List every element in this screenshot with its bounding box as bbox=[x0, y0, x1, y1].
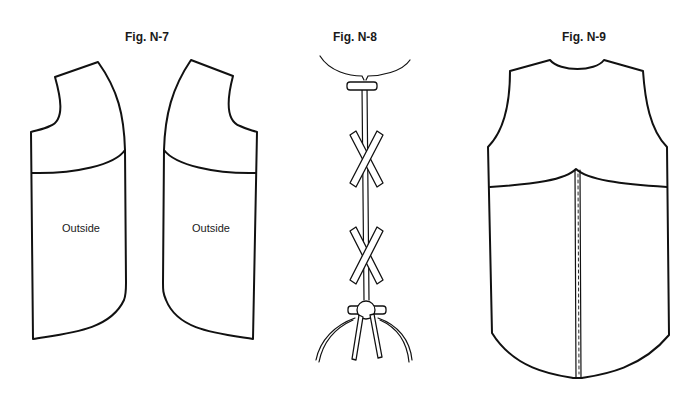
fig-n7-left-panel bbox=[31, 62, 126, 339]
fig-n7-right-panel bbox=[163, 60, 257, 339]
diagram-canvas bbox=[0, 0, 692, 400]
neckline-curve bbox=[320, 56, 410, 80]
lace-knot bbox=[316, 301, 412, 362]
yoke-seam-left bbox=[32, 150, 125, 173]
lace-bar bbox=[347, 82, 377, 90]
center-back-seam bbox=[575, 170, 576, 378]
panel-label-outside-right: Outside bbox=[192, 222, 230, 234]
fig-n9-back bbox=[488, 60, 669, 378]
yoke-seam-back bbox=[490, 169, 667, 187]
lace-cross-2 bbox=[350, 227, 383, 284]
panel-label-outside-left: Outside bbox=[62, 222, 100, 234]
yoke-seam-right bbox=[164, 150, 256, 173]
lace-cross-1 bbox=[350, 131, 383, 187]
fig-n8-lacing bbox=[316, 56, 412, 362]
